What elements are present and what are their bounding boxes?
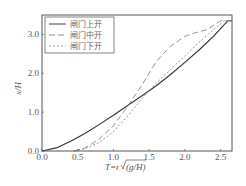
legend-item-3: 闸门下开 [70,41,102,51]
y-tick-label: 2.0 [28,68,40,78]
x-axis-label: T=t [105,162,119,172]
x-tick-label: 2.5 [215,152,227,162]
chart: 0.00.51.01.52.02.5 0.01.02.03.0 T=t (g/H… [0,0,246,186]
legend-item-1: 闸门上开 [70,19,102,29]
y-tick-label: 1.0 [28,107,40,117]
x-tick-label: 1.5 [144,152,156,162]
y-tick-label: 0.0 [28,146,40,156]
legend: 闸门上开 闸门中开 闸门下开 [45,17,114,53]
y-tick-label: 3.0 [28,29,40,39]
y-axis-label: x/H [13,82,23,96]
x-tick-label: 2.0 [179,152,191,162]
x-axis-label-sqrt: (g/H) [126,162,146,172]
x-tick-label: 1.0 [108,152,120,162]
x-tick-label: 0.5 [72,152,84,162]
legend-item-2: 闸门中开 [70,30,102,40]
